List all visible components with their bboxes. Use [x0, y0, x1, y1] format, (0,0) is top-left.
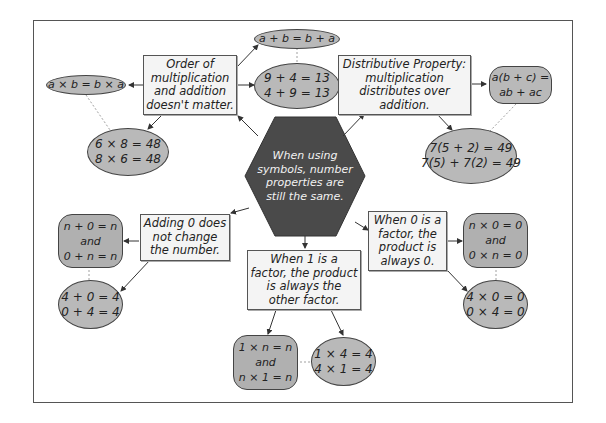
mult-identity-line-4: other factor.: [269, 294, 340, 308]
example-line: 4 × 0 = 0: [466, 290, 524, 305]
zero-property-example: 4 × 0 = 0 0 × 4 = 0: [463, 280, 528, 329]
example-line: 1 × 4 = 4: [314, 347, 372, 362]
example-line: 9 + 4 = 13: [264, 71, 330, 86]
example-line: 0 + 4 = 4: [61, 305, 119, 320]
additive-identity-example: 4 + 0 = 4 0 + 4 = 4: [58, 280, 123, 329]
formula-line: 1 × n = n: [239, 340, 292, 355]
mult-identity-line-2: factor, the product: [251, 267, 358, 281]
example-line: 4 + 9 = 13: [264, 86, 330, 101]
formula-line: ab + ac: [499, 85, 542, 100]
commutative-add-formula: a + b = b + a: [259, 32, 335, 46]
mult-identity-line-1: When 1 is a: [270, 253, 338, 267]
distributive-line-1: Distributive Property:: [343, 58, 466, 72]
distributive-example: 7(5 + 2) = 49 7(5) + 7(2) = 49: [425, 128, 517, 184]
zero-property-symbolic: n × 0 = 0 and 0 × n = 0: [463, 213, 528, 268]
center-line-4: still the same.: [266, 190, 344, 204]
example-line: 7(5) + 7(2) = 49: [421, 156, 521, 171]
additive-line-2: not change: [153, 231, 218, 245]
multiplicative-identity-example: 1 × 4 = 4 4 × 1 = 4: [311, 337, 376, 386]
additive-line-1: Adding 0 does: [144, 217, 226, 231]
multiplicative-identity-symbolic: 1 × n = n and n × 1 = n: [233, 335, 298, 390]
example-line: 8 × 6 = 48: [95, 152, 161, 167]
formula-line: 0 × n = 0: [469, 248, 522, 263]
center-line-2: symbols, number: [257, 163, 352, 177]
commutative-line-4: doesn't matter.: [146, 99, 234, 113]
distributive-line-4: addition.: [379, 99, 430, 113]
example-line: 6 × 8 = 48: [95, 137, 161, 152]
formula-line: 0 + n = n: [64, 249, 117, 264]
mult-identity-line-3: is always the: [267, 280, 342, 294]
commutative-line-2: multiplication: [151, 72, 229, 86]
formula-line: and: [485, 233, 506, 248]
zero-line-1: When 0 is a: [374, 214, 442, 228]
zero-property-box: When 0 is a factor, the product is alway…: [368, 211, 447, 271]
commutative-add-example: 9 + 4 = 13 4 + 9 = 13: [254, 63, 340, 109]
additive-line-3: the number.: [150, 244, 220, 258]
commutative-mult-example: 6 × 8 = 48 8 × 6 = 48: [87, 128, 169, 176]
formula-line: n + 0 = n: [64, 219, 117, 234]
formula-line: and: [80, 234, 101, 249]
commutative-mult-symbolic: a × b = b × a: [46, 75, 126, 95]
example-line: 0 × 4 = 0: [466, 305, 524, 320]
distributive-line-2: multiplication: [365, 72, 443, 86]
zero-line-2: factor, the: [378, 228, 437, 242]
commutative-property-box: Order of multiplication and addition doe…: [143, 55, 237, 115]
commutative-add-symbolic: a + b = b + a: [254, 29, 340, 49]
additive-identity-box: Adding 0 does not change the number.: [140, 214, 230, 261]
distributive-property-box: Distributive Property: multiplication di…: [338, 55, 471, 115]
center-line-3: properties are: [266, 176, 344, 190]
additive-identity-symbolic: n + 0 = n and 0 + n = n: [58, 214, 123, 268]
center-hexagon-text: When using symbols, number properties ar…: [245, 136, 365, 216]
center-line-1: When using: [273, 149, 338, 163]
formula-line: n × 0 = 0: [469, 218, 522, 233]
example-line: 4 × 1 = 4: [314, 362, 372, 377]
zero-line-3: product is: [379, 241, 436, 255]
distributive-line-3: distributes over: [359, 85, 449, 99]
zero-line-4: always 0.: [380, 255, 434, 269]
commutative-line-1: Order of: [166, 58, 214, 72]
commutative-mult-formula: a × b = b × a: [48, 78, 124, 92]
example-line: 7(5 + 2) = 49: [430, 141, 513, 156]
multiplicative-identity-box: When 1 is a factor, the product is alway…: [247, 250, 361, 310]
commutative-line-3: and addition: [154, 85, 226, 99]
formula-line: n × 1 = n: [239, 370, 292, 385]
formula-line: and: [255, 355, 276, 370]
example-line: 4 + 0 = 4: [61, 290, 119, 305]
distributive-symbolic: a(b + c) = ab + ac: [489, 66, 552, 104]
formula-line: a(b + c) =: [492, 70, 549, 85]
